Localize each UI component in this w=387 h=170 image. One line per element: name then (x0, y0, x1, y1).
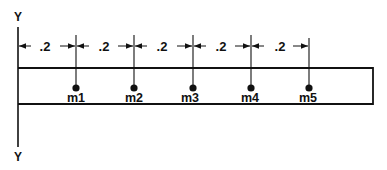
dimension-label-1: .2 (40, 39, 51, 54)
mass-label-1: m1 (67, 91, 85, 105)
mass-label-4: m4 (241, 91, 259, 105)
mass-label-2: m2 (125, 91, 143, 105)
y-axis-bottom-label: Y (14, 150, 22, 164)
dimension-label-4: .2 (216, 39, 227, 54)
dimension-label-2: .2 (99, 39, 110, 54)
mass-label-5: m5 (299, 91, 317, 105)
dimension-label-3: .2 (157, 39, 168, 54)
y-axis-top-label: Y (14, 10, 22, 24)
dimension-label-5: .2 (275, 39, 286, 54)
mass-label-3: m3 (181, 91, 199, 105)
beam-diagram: Y Y .2 .2 .2 .2 .2 (0, 0, 387, 170)
mass-labels: m1 m2 m3 m4 m5 (67, 91, 317, 105)
